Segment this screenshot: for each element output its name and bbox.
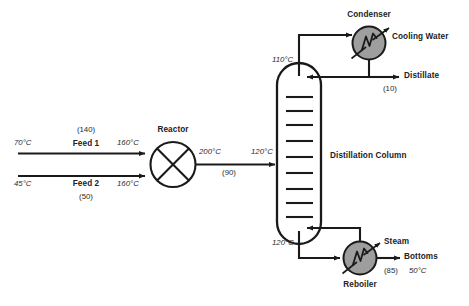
process-flow-diagram: (140) 70°C Feed 1 160°C 45°C Feed 2 160°… [0, 0, 469, 306]
reactor-label: Reactor [157, 126, 188, 134]
bottoms-rate-label: (85) [384, 267, 398, 275]
column-feed-temp-label: 120°C [251, 148, 273, 156]
distillate-rate-label: (10) [383, 85, 397, 93]
feed2-rate-label: (50) [79, 193, 93, 201]
feed2-label: Feed 2 [73, 180, 100, 188]
column-bottom-temp-label: 120°C [272, 239, 294, 247]
feed2-inlet-temp-label: 45°C [14, 180, 31, 188]
feed2-outlet-temp-label: 160°C [117, 180, 139, 188]
reboiler-label: Reboiler [343, 281, 377, 289]
condenser-label: Condenser [347, 11, 391, 19]
distillation-column-label: Distillation Column [330, 152, 407, 160]
steam-label: Steam [384, 238, 409, 246]
column-top-temp-label: 110°C [272, 56, 293, 64]
feed1-label: Feed 1 [73, 140, 100, 148]
feed1-rate-label: (140) [77, 126, 95, 134]
feed1-inlet-temp-label: 70°C [14, 139, 31, 147]
reactor-outlet-rate-label: (90) [222, 169, 236, 177]
bottoms-label: Bottoms [404, 253, 438, 261]
distillate-label: Distillate [404, 72, 439, 80]
reactor-outlet-temp-label: 200°C [199, 148, 221, 156]
cooling-water-label: Cooling Water [392, 33, 449, 41]
bottoms-temp-label: 50°C [409, 267, 426, 275]
feed1-outlet-temp-label: 160°C [117, 139, 139, 147]
